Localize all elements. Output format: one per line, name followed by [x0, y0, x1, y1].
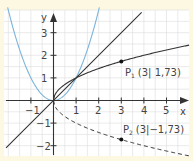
point-p2	[119, 138, 123, 142]
y-tick-label: −2	[36, 141, 51, 152]
x-axis-label: x	[180, 106, 186, 117]
point-p1	[119, 59, 123, 63]
x-tick-label: −1	[25, 105, 40, 116]
x-tick-label: 2	[95, 105, 101, 116]
function-plot: x y −1 1 2 3 4 5 3 2 1 −1 −2 P1(3| 1,73)…	[0, 0, 193, 161]
y-tick-label: 2	[41, 50, 47, 61]
x-tick-label: 4	[141, 105, 147, 116]
x-tick-label: 3	[118, 105, 124, 116]
y-tick-label: 3	[41, 28, 47, 39]
y-tick-label: 1	[41, 73, 47, 84]
x-tick-label: 1	[73, 105, 79, 116]
x-tick-label: 5	[163, 105, 169, 116]
y-tick-label: −1	[36, 118, 51, 129]
y-axis-label: y	[41, 12, 47, 23]
